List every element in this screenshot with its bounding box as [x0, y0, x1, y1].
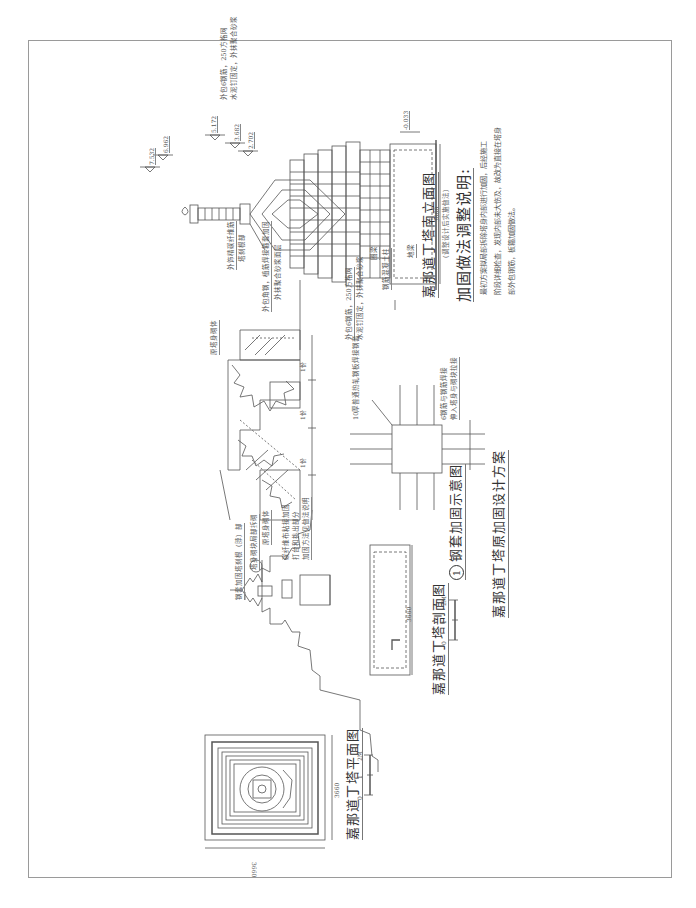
dimension-label: 1份	[298, 362, 307, 372]
annotation: 地梁	[407, 244, 417, 258]
elevation-mark: 6.962	[162, 136, 170, 153]
masonry-section-detail	[220, 330, 316, 520]
plan-title: 嘉那道丁塔平面图	[342, 728, 363, 840]
scale-label: 2M	[356, 751, 363, 761]
notes-heading: 加固做法调整说明:	[452, 168, 474, 302]
annotation: 钢筋混凝土柱	[382, 248, 392, 290]
annotation: 外包6钢筋，250方格网	[220, 27, 229, 100]
scale-label: 0	[356, 796, 363, 800]
annotation: 伸入塔身与砌块拉接	[450, 357, 460, 420]
annotation: 塔刹根部	[238, 234, 247, 262]
annotation: 10厚普通热轧钢板焊接钢套	[352, 335, 361, 420]
annotation: 原塔身砌体	[210, 320, 220, 355]
stupa-plan	[205, 735, 332, 848]
annotation: 打台和挑出部分	[292, 511, 301, 560]
dimension-label: 3660	[251, 862, 258, 877]
elevation-mark: 2.702	[247, 132, 255, 149]
annotation: 外包6钢筋，250方格网	[345, 267, 355, 340]
elevation-mark: 5.172	[210, 116, 218, 133]
scale-label: 1	[440, 620, 447, 624]
detail-number-badge: 1	[449, 565, 464, 580]
annotation: 外包角钢，植筋焊接箍套加固	[262, 221, 272, 312]
steel-jacket-title: 1钢套加固示意图	[445, 464, 466, 580]
annotation: 原塔身砌体	[262, 510, 272, 545]
elevation-mark: -0.033	[402, 111, 410, 130]
annotation: 碳纤维布粘接加固	[282, 504, 291, 560]
scale-label: 2M	[440, 596, 447, 606]
annotation: 外饰精碳纤维筋	[227, 221, 237, 270]
annotation: 塔身砌块局部拆砌	[250, 514, 260, 570]
dimension-label: 1份	[298, 458, 307, 468]
scale-label: 1	[356, 775, 363, 779]
south-elevation-subtitle: （调整设计后实施做法）	[440, 185, 450, 262]
elevation-mark: 3.682	[233, 124, 241, 141]
annotation: 钢套加固塔刹根（脖）部	[235, 523, 245, 600]
stupa-finial-icon	[182, 204, 250, 224]
annotation: 6钢筋与钢筋焊接	[440, 367, 449, 420]
dimension-label: 1份	[298, 410, 307, 420]
scale-label: 0	[440, 641, 447, 645]
annotation: 水泥钉固定，外抹聚合砂浆	[230, 16, 239, 100]
south-elevation-title: 嘉那道丁塔南立面图	[418, 172, 439, 298]
notes-line: 部外包钢筋，板箍加固做法。	[506, 204, 518, 295]
annotation: 水泥钉固定，外抹聚合砂浆	[356, 256, 365, 340]
dimension-label: 3660	[405, 607, 412, 622]
notes-line: 最初方案拟局部拆除塔身内部进行加固，后经施工	[478, 141, 490, 295]
elevation-mark: 7.532	[148, 148, 156, 165]
main-title: 嘉那道丁塔原加固设计方案	[488, 450, 509, 618]
annotation: 圈梁	[370, 246, 380, 260]
notes-line: 阶段详细检查，发现内部未大伤及，故改为直接在塔身	[492, 127, 504, 295]
annotation: 外抹聚合砂浆面层	[274, 244, 283, 300]
annotation: 加固方法见做法说明	[302, 497, 312, 560]
dimension-label: 3660	[333, 783, 340, 798]
